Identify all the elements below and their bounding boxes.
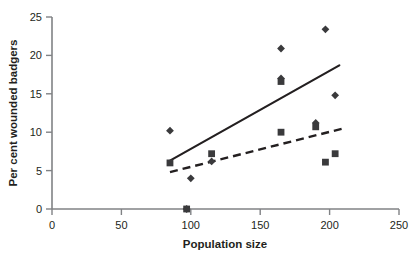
diamond-marker (331, 91, 339, 99)
diamond-marker (187, 174, 195, 182)
y-tick-label: 0 (36, 203, 42, 215)
x-tick-label: 150 (251, 219, 269, 231)
x-axis-tick-labels: 050100150200250 (49, 219, 408, 231)
square-marker (278, 129, 285, 136)
x-axis: 050100150200250 (49, 209, 408, 231)
y-tick-label: 10 (30, 126, 42, 138)
x-axis-ticks (52, 209, 399, 215)
y-axis-tick-labels: 0510152025 (30, 11, 42, 215)
y-tick-label: 15 (30, 88, 42, 100)
x-tick-label: 0 (49, 219, 55, 231)
y-axis-ticks (46, 17, 52, 209)
square-marker (322, 159, 329, 166)
y-tick-label: 25 (30, 11, 42, 23)
diamond-marker (208, 157, 216, 165)
dashed-trend-line (170, 128, 344, 172)
square-marker (278, 78, 285, 85)
diamond-marker (277, 45, 285, 53)
y-axis-title: Per cent wounded badgers (7, 40, 19, 187)
square-marker (167, 160, 174, 167)
diamond-marker (166, 127, 174, 135)
data-markers (166, 25, 339, 213)
solid-trend-line (170, 65, 339, 160)
y-tick-label: 20 (30, 49, 42, 61)
x-axis-title: Population size (183, 238, 267, 250)
y-tick-label: 5 (36, 165, 42, 177)
x-tick-label: 200 (320, 219, 338, 231)
x-tick-label: 100 (182, 219, 200, 231)
square-marker (208, 150, 215, 157)
square-marker (183, 206, 190, 213)
trend-lines (170, 65, 344, 172)
x-tick-label: 250 (390, 219, 408, 231)
diamond-marker (322, 25, 330, 33)
square-marker (312, 123, 319, 130)
chart-figure: 0510152025 050100150200250 Population si… (0, 0, 411, 257)
x-tick-label: 50 (115, 219, 127, 231)
scatter-plot: 0510152025 050100150200250 Population si… (0, 0, 411, 257)
square-marker (332, 150, 339, 157)
y-axis: 0510152025 (30, 11, 52, 215)
